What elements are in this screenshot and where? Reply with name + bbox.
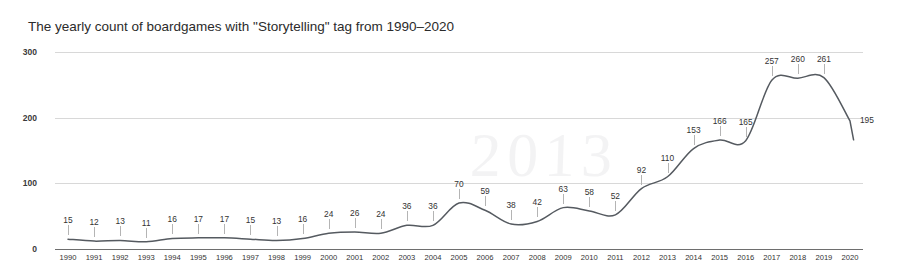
x-axis-tick-label: 2008 <box>529 253 546 262</box>
x-axis-tick-label: 2010 <box>581 253 598 262</box>
x-axis-tick-label: 1991 <box>86 253 103 262</box>
data-point-label: 260 <box>791 54 805 64</box>
x-axis-tick-label: 2015 <box>711 253 728 262</box>
x-axis-tick-label: 2004 <box>424 253 441 262</box>
data-point-label: 12 <box>89 217 98 227</box>
y-axis-tick-label: 100 <box>0 178 37 188</box>
x-axis-tick-label: 2012 <box>633 253 650 262</box>
x-axis-tick-label: 2009 <box>555 253 572 262</box>
data-label-leader <box>641 175 642 185</box>
data-label-leader <box>433 211 434 221</box>
data-point-label: 13 <box>272 216 281 226</box>
data-label-leader <box>172 224 173 234</box>
data-point-label: 58 <box>585 187 594 197</box>
x-axis-tick-label: 2020 <box>842 253 859 262</box>
data-point-label: 17 <box>194 214 203 224</box>
data-point-label: 36 <box>402 201 411 211</box>
x-axis-tick-label: 2013 <box>659 253 676 262</box>
data-label-leader <box>94 227 95 237</box>
x-axis-tick-label: 2000 <box>320 253 337 262</box>
data-label-leader <box>329 219 330 229</box>
data-point-label: 261 <box>817 54 831 64</box>
y-axis-tick-label: 300 <box>0 47 37 57</box>
chart-container: 2013 The yearly count of boardgames with… <box>0 0 899 279</box>
data-label-leader <box>511 210 512 220</box>
x-axis-tick-label: 2007 <box>503 253 520 262</box>
data-label-leader <box>381 219 382 229</box>
data-label-leader <box>277 226 278 236</box>
data-label-leader <box>68 225 69 235</box>
x-axis-line <box>55 249 863 250</box>
data-point-label: 36 <box>428 201 437 211</box>
data-point-label: 11 <box>142 218 151 228</box>
x-axis-tick-label: 2005 <box>451 253 468 262</box>
data-label-leader <box>772 66 773 76</box>
x-axis-tick-label: 2018 <box>789 253 806 262</box>
data-point-label: 59 <box>480 186 489 196</box>
data-point-label: 153 <box>687 125 701 135</box>
data-point-label: 13 <box>115 216 124 226</box>
data-point-label: 110 <box>661 153 674 163</box>
x-axis-tick-label: 1993 <box>138 253 155 262</box>
data-point-label: 166 <box>713 116 727 126</box>
y-axis-tick-label: 0 <box>0 244 37 254</box>
data-point-label: 16 <box>298 214 307 224</box>
data-label-leader <box>537 207 538 217</box>
x-axis-tick-label: 1998 <box>268 253 285 262</box>
x-axis-tick-label: 2002 <box>372 253 389 262</box>
x-axis-tick-label: 1999 <box>294 253 311 262</box>
x-axis-tick-label: 1997 <box>242 253 259 262</box>
data-label-leader <box>198 224 199 234</box>
data-point-label: 257 <box>765 56 779 66</box>
data-point-label: 15 <box>63 215 72 225</box>
data-point-label: 17 <box>220 214 229 224</box>
data-label-leader <box>563 194 564 204</box>
data-point-label: 38 <box>506 200 515 210</box>
data-point-label: 52 <box>611 191 620 201</box>
data-point-label: 15 <box>246 215 255 225</box>
data-point-label: 16 <box>168 214 177 224</box>
x-axis-tick-label: 2001 <box>346 253 363 262</box>
data-label-leader <box>746 127 747 137</box>
y-axis-tick-label: 200 <box>0 113 37 123</box>
x-axis-tick-label: 2014 <box>685 253 702 262</box>
data-label-leader <box>120 226 121 236</box>
x-axis-tick-label: 2017 <box>763 253 780 262</box>
data-point-label: 24 <box>376 209 385 219</box>
gridline <box>55 52 863 53</box>
x-axis-tick-label: 2016 <box>737 253 754 262</box>
data-label-leader <box>694 135 695 145</box>
x-axis-tick-label: 2003 <box>398 253 415 262</box>
data-label-leader <box>824 64 825 74</box>
data-label-leader <box>720 126 721 136</box>
x-axis-tick-label: 2011 <box>607 253 623 262</box>
x-axis-tick-label: 2006 <box>477 253 494 262</box>
data-label-leader <box>303 224 304 234</box>
data-point-label: 165 <box>739 117 753 127</box>
data-label-leader <box>355 218 356 228</box>
data-label-leader <box>146 228 147 238</box>
data-label-leader <box>407 211 408 221</box>
data-point-label: 42 <box>533 197 542 207</box>
data-point-label: 195 <box>860 115 874 125</box>
data-point-label: 24 <box>324 209 333 219</box>
data-label-leader <box>615 201 616 211</box>
data-label-leader <box>798 64 799 74</box>
data-point-label: 92 <box>637 165 646 175</box>
data-label-leader <box>485 196 486 206</box>
x-axis-tick-label: 1996 <box>216 253 233 262</box>
data-label-leader <box>668 163 669 173</box>
data-point-label: 63 <box>559 184 568 194</box>
data-label-leader <box>589 197 590 207</box>
x-axis-tick-label: 1992 <box>112 253 129 262</box>
data-label-leader <box>459 189 460 199</box>
x-axis-tick-label: 1994 <box>164 253 181 262</box>
data-label-leader <box>250 225 251 235</box>
x-axis-tick-label: 1995 <box>190 253 207 262</box>
chart-title: The yearly count of boardgames with "Sto… <box>28 19 454 34</box>
x-axis-tick-label: 2019 <box>815 253 832 262</box>
data-point-label: 26 <box>350 208 359 218</box>
data-label-leader <box>224 224 225 234</box>
data-point-label: 70 <box>454 179 463 189</box>
x-axis-tick-label: 1990 <box>60 253 77 262</box>
